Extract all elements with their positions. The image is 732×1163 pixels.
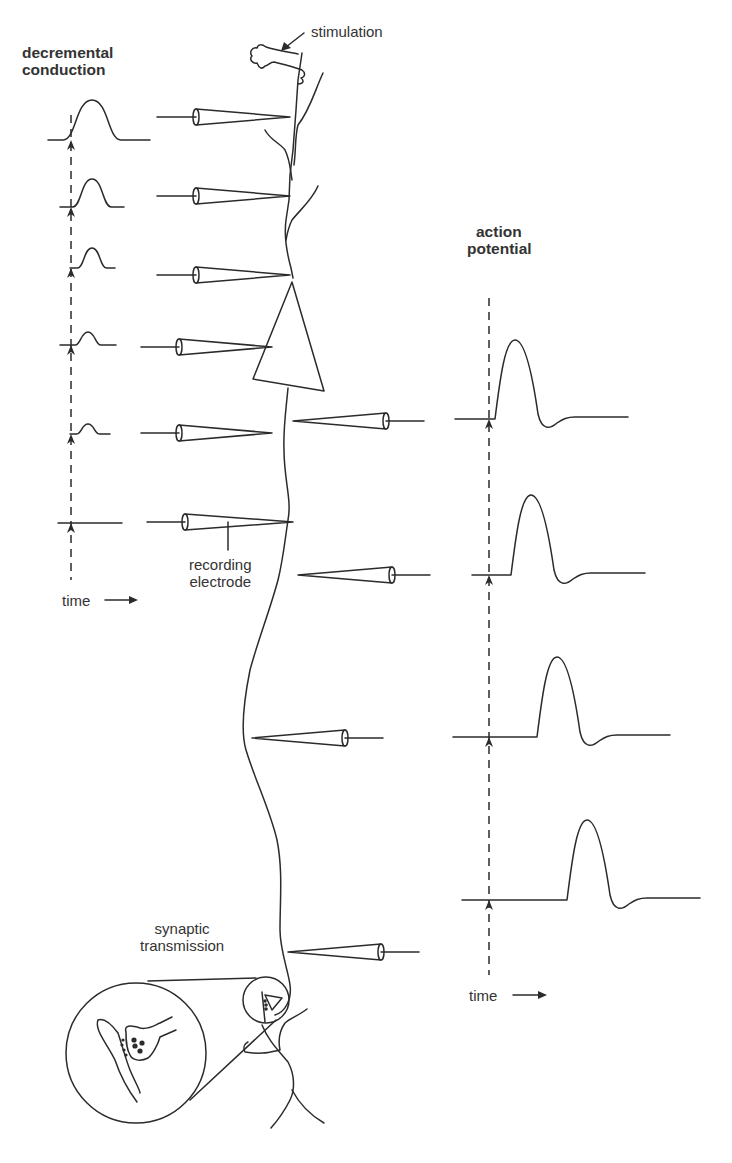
- time-arrow-right-icon: [513, 991, 547, 999]
- vesicle: [132, 1043, 137, 1048]
- vesicle: [137, 1048, 142, 1053]
- action-potential-trace: [455, 340, 628, 429]
- synaptic-terminal: [262, 992, 282, 1022]
- recording-electrode: [141, 339, 272, 355]
- magnifier: [66, 977, 289, 1123]
- vesicle: [139, 1040, 144, 1045]
- vesicle: [264, 1007, 268, 1011]
- stimulus-marker-arrow-icon: [67, 523, 75, 533]
- label-line: conduction: [22, 61, 113, 78]
- label-line: decremental: [22, 44, 113, 61]
- stimulation-arrow: [281, 33, 304, 51]
- vesicle: [264, 1003, 268, 1007]
- decremental-trace: [67, 424, 110, 444]
- dendrite-branch-3: [286, 186, 318, 240]
- magnifier-large-circle: [66, 983, 206, 1123]
- label-line: synaptic: [140, 920, 224, 937]
- enlarged-postsynaptic: [97, 1020, 140, 1102]
- neuron: [243, 45, 324, 1128]
- electrodes-right: [252, 413, 430, 960]
- electrodes-left: [141, 109, 293, 530]
- action-potential-traces: [453, 298, 700, 975]
- decremental-trace: [67, 248, 115, 278]
- recording-electrode: [293, 413, 424, 429]
- recording-electrode: [298, 567, 430, 583]
- time-arrow-left-icon: [105, 596, 138, 604]
- dendrite-branch-2: [265, 130, 292, 180]
- magnifier-line-top: [148, 978, 256, 981]
- receptor: [120, 1043, 123, 1046]
- receptor: [124, 1053, 127, 1056]
- decremental-trace: [60, 179, 124, 217]
- recording-electrode-label: recording electrode: [189, 556, 252, 590]
- action-potential-trace: [453, 657, 670, 747]
- stimulus-marker-arrow-icon: [485, 737, 493, 747]
- stimulated-dendrite-tip: [251, 45, 305, 84]
- recording-electrode: [141, 425, 272, 441]
- action-potential-trace: [462, 820, 700, 910]
- label-line: potential: [467, 240, 532, 257]
- decremental-trace: [48, 100, 150, 150]
- recording-electrode: [288, 944, 419, 960]
- vesicle: [131, 1037, 136, 1042]
- receptor: [121, 1038, 124, 1041]
- decremental-trace: [60, 332, 116, 355]
- vesicle: [263, 999, 267, 1003]
- time-label-right: time: [469, 987, 497, 1004]
- receptor: [122, 1048, 125, 1051]
- neuron-conduction-diagram: [0, 0, 732, 1163]
- cell-body: [253, 282, 324, 391]
- dendrite-branch-1: [294, 73, 323, 165]
- recording-electrode: [147, 514, 293, 530]
- decremental-trace: [58, 523, 122, 533]
- recording-electrode: [157, 109, 290, 125]
- recording-electrode: [157, 188, 290, 204]
- postsynaptic-dendrite: [262, 1025, 294, 1128]
- label-line: recording: [189, 556, 252, 573]
- label-line: action: [467, 223, 532, 240]
- decremental-traces: [48, 100, 150, 580]
- recording-electrode: [252, 730, 383, 746]
- recording-electrode: [157, 267, 290, 283]
- time-label-left: time: [62, 592, 90, 609]
- postsynaptic-branch-2: [292, 1090, 324, 1123]
- label-line: electrode: [189, 573, 252, 590]
- stimulation-label: stimulation: [311, 23, 383, 40]
- decremental-conduction-label: decremental conduction: [22, 44, 113, 78]
- axon: [243, 388, 290, 1015]
- stimulus-marker-arrow-icon: [485, 900, 493, 910]
- label-line: transmission: [140, 937, 224, 954]
- action-potential-label: action potential: [467, 223, 532, 257]
- action-potential-trace: [472, 495, 645, 585]
- synaptic-transmission-label: synaptic transmission: [140, 920, 224, 954]
